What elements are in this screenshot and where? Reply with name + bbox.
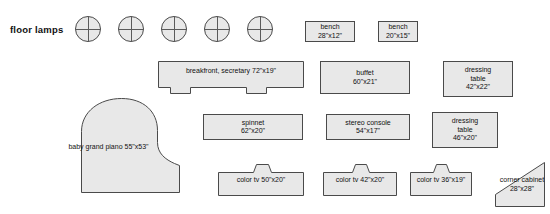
floor-lamp-icon[interactable]	[161, 16, 187, 42]
piece-label-line-2: table	[470, 75, 485, 84]
piece-baby-grand-piano[interactable]: baby grand piano 55"x53"	[73, 97, 188, 193]
color-tv-outline	[410, 164, 472, 196]
floor-lamp-icon[interactable]	[247, 16, 273, 42]
piece-dimension: 60"x21"	[353, 78, 377, 87]
breakfront-outline	[158, 61, 304, 94]
piece-label: bench	[320, 23, 339, 32]
piece-dressing-table-1[interactable]: dressing table 42"x22"	[443, 61, 513, 97]
color-tv-outline	[323, 164, 397, 196]
color-tv-outline	[218, 164, 304, 196]
piece-label-line-2: table	[457, 126, 472, 135]
piece-bench-1[interactable]: bench 28"x12"	[305, 21, 355, 42]
corner-cabinet-outline	[495, 162, 545, 207]
piece-stereo-console[interactable]: stereo console 54"x17"	[326, 114, 410, 140]
piece-label: bench	[388, 23, 407, 32]
piece-label-line-1: dressing	[452, 117, 478, 126]
piece-spinnet[interactable]: spinnet 62"x20"	[203, 114, 303, 140]
piece-dimension: 20"x15"	[386, 32, 410, 41]
baby-grand-piano-outline	[73, 97, 188, 193]
floor-lamp-icon[interactable]	[75, 16, 101, 42]
piece-color-tv-3[interactable]: color tv 36"x19"	[410, 164, 472, 196]
piece-bench-2[interactable]: bench 20"x15"	[378, 21, 418, 42]
floor-lamps-label: floor lamps	[10, 24, 63, 35]
piece-color-tv-1[interactable]: color tv 50"x20"	[218, 164, 304, 196]
piece-label-line-1: dressing	[465, 66, 491, 75]
piece-label: stereo console	[345, 119, 391, 128]
piece-label: spinnet	[242, 119, 265, 128]
piece-dimension: 62"x20"	[241, 127, 265, 136]
piece-color-tv-2[interactable]: color tv 42"x20"	[323, 164, 397, 196]
piece-corner-cabinet[interactable]: corner cabinet 28"x28"	[495, 162, 545, 207]
piece-dimension: 42"x22"	[466, 83, 490, 92]
piece-breakfront-secretary[interactable]: breakfront, secretary 72"x19"	[158, 61, 304, 94]
piece-buffet[interactable]: buffet 60"x21"	[320, 61, 410, 94]
piece-dimension: 54"x17"	[356, 127, 380, 136]
piece-dimension: 28"x12"	[318, 32, 342, 41]
furniture-template-sheet: floor lamps bench 28"x12" bench 20"x15" …	[0, 0, 550, 214]
floor-lamp-icon[interactable]	[204, 16, 230, 42]
piece-dimension: 46"x20"	[453, 134, 477, 143]
piece-label: buffet	[356, 69, 373, 78]
floor-lamp-icon[interactable]	[118, 16, 144, 42]
piece-dressing-table-2[interactable]: dressing table 46"x20"	[432, 112, 498, 148]
